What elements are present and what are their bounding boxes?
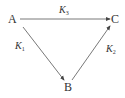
arrow-b-to-c [72, 26, 110, 80]
reaction-diagram: A C B K3 K1 K2 [0, 0, 125, 98]
node-a: A [8, 13, 17, 25]
node-c: C [111, 13, 119, 25]
label-k1: K1 [15, 41, 25, 54]
arrow-a-to-b [23, 27, 64, 80]
label-k3: K3 [59, 5, 69, 18]
node-b: B [64, 81, 72, 93]
label-k2: K2 [106, 44, 116, 57]
